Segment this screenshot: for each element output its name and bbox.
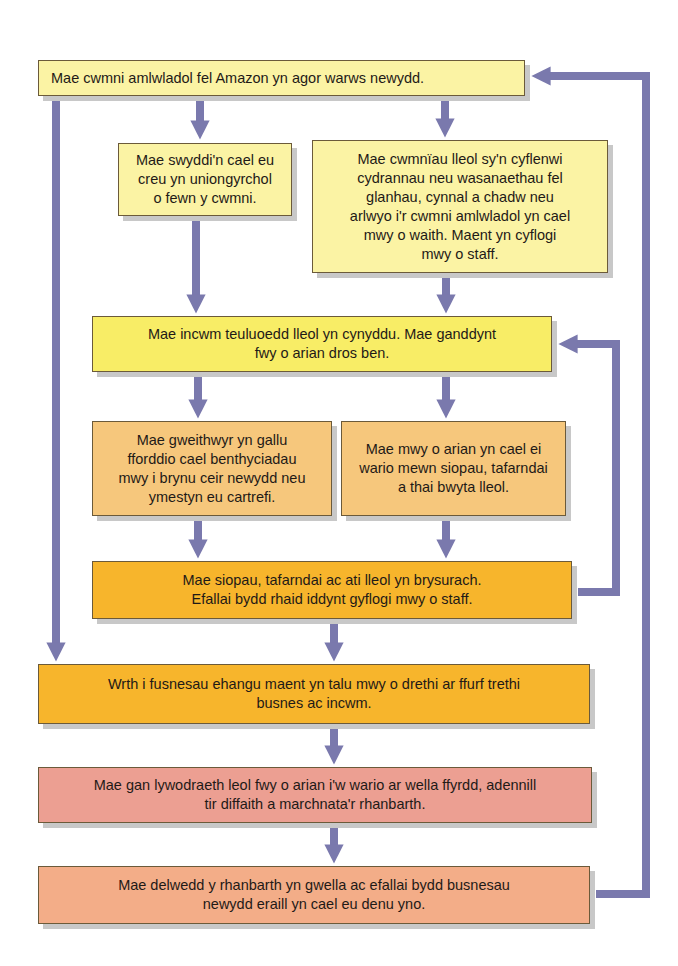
arrow-7-4-loop <box>568 344 616 592</box>
box-business-taxes: Wrth i fusnesau ehangu maent yn talu mwy… <box>38 664 590 724</box>
box-shops-busier: Mae siopau, tafarndai ac ati lleol yn br… <box>92 561 572 619</box>
box-region-image: Mae delwedd y rhanbarth yn gwella ac efa… <box>38 866 590 924</box>
box-local-spending: Mae mwy o arian yn cael ei wario mewn si… <box>341 421 566 516</box>
box-local-government: Mae gan lywodraeth leol fwy o arian i'w … <box>38 767 592 823</box>
box-direct-jobs: Mae swyddi'n cael eu creu yn uniongyrcho… <box>118 143 292 216</box>
box-amazon-warehouse: Mae cwmni amlwladol fel Amazon yn agor w… <box>38 60 525 96</box>
box-local-suppliers: Mae cwmnïau lleol sy'n cyflenwi cydranna… <box>312 140 608 273</box>
box-household-income: Mae incwm teuluoedd lleol yn cynyddu. Ma… <box>92 316 552 372</box>
box-workers-loans: Mae gweithwyr yn gallu fforddio cael ben… <box>92 421 332 516</box>
